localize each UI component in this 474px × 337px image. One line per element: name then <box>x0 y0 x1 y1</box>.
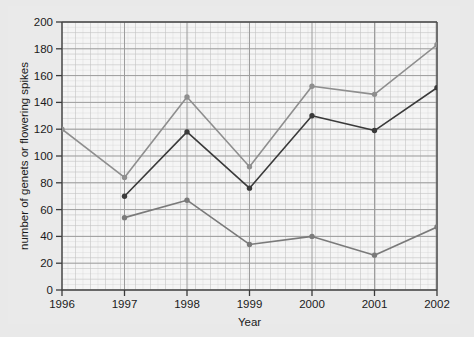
data-point <box>122 215 127 220</box>
data-point <box>184 198 189 203</box>
data-point <box>434 85 439 90</box>
x-tick-label: 1998 <box>174 298 200 310</box>
data-point <box>247 242 252 247</box>
data-point <box>122 175 127 180</box>
data-point <box>434 224 439 229</box>
data-point <box>309 234 314 239</box>
data-point <box>434 42 439 47</box>
y-tick-label: 200 <box>34 16 53 28</box>
y-tick-label: 60 <box>40 204 53 216</box>
x-tick-label: 2001 <box>362 298 388 310</box>
y-tick-label: 0 <box>47 284 53 296</box>
data-point <box>122 194 127 199</box>
data-point <box>247 185 252 190</box>
x-tick-label: 2002 <box>424 298 450 310</box>
y-tick-label: 160 <box>34 70 53 82</box>
y-tick-label: 20 <box>40 257 53 269</box>
chart-figure: 0 20 40 60 80 100 120 140 160 180 200 19… <box>0 0 474 337</box>
y-axis-tick-labels: 0 20 40 60 80 100 120 140 160 180 200 <box>34 16 53 296</box>
data-point <box>184 94 189 99</box>
y-tick-label: 100 <box>34 150 53 162</box>
data-point <box>309 113 314 118</box>
x-axis-ticks <box>62 290 437 296</box>
line-chart: 0 20 40 60 80 100 120 140 160 180 200 19… <box>0 0 474 337</box>
x-tick-label: 2000 <box>299 298 325 310</box>
data-point <box>372 92 377 97</box>
y-tick-label: 180 <box>34 43 53 55</box>
x-axis-title: Year <box>238 316 261 328</box>
data-point <box>247 164 252 169</box>
y-tick-label: 120 <box>34 123 53 135</box>
x-tick-label: 1997 <box>112 298 138 310</box>
y-tick-label: 140 <box>34 96 53 108</box>
y-tick-label: 40 <box>40 230 53 242</box>
x-axis-tick-labels: 1996 1997 1998 1999 2000 2001 2002 <box>49 298 450 310</box>
data-point <box>372 128 377 133</box>
data-point <box>372 252 377 257</box>
data-point <box>309 84 314 89</box>
x-tick-label: 1996 <box>49 298 75 310</box>
y-tick-label: 80 <box>40 177 53 189</box>
x-tick-label: 1999 <box>237 298 263 310</box>
y-axis-ticks <box>56 22 62 290</box>
y-axis-title: number of genets or flowering spikes <box>18 62 30 250</box>
data-point <box>184 129 189 134</box>
